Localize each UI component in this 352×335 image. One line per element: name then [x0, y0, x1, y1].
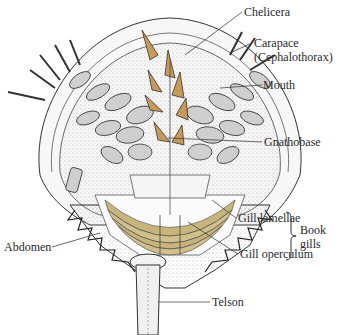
label-chelicera: Chelicera: [244, 6, 290, 19]
label-gill-lamellae: Gill lamellae: [238, 212, 300, 225]
label-carapace: Carapace: [254, 37, 299, 50]
label-cephalothorax: (Cephalothorax): [254, 51, 333, 64]
label-abdomen: Abdomen: [4, 241, 51, 254]
horseshoe-crab-diagram: Chelicera Carapace (Cephalothorax) Mouth…: [0, 0, 352, 335]
label-book-gills-1: Book: [300, 224, 326, 237]
label-book-gills-2: gills: [300, 238, 321, 251]
label-mouth: Mouth: [263, 79, 295, 92]
label-gnathobase: Gnathobase: [264, 136, 321, 149]
label-telson: Telson: [212, 296, 244, 309]
telson-shape: [130, 254, 166, 335]
